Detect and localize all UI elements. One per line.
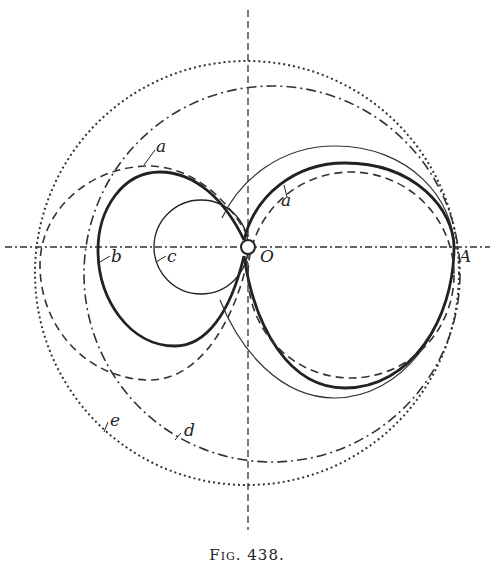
label-a-right: a xyxy=(281,190,291,210)
label-c: c xyxy=(167,246,177,266)
leader-c xyxy=(156,256,166,262)
figure-caption: Fig. 438. xyxy=(0,546,494,564)
curve-d-dashdot xyxy=(84,86,460,462)
label-b: b xyxy=(111,246,122,266)
curve-b-outer-thick xyxy=(244,163,454,388)
label-a-left: a xyxy=(156,136,166,156)
leader-b xyxy=(100,256,110,262)
label-d: d xyxy=(184,420,195,440)
label-A: A xyxy=(457,246,471,266)
label-O: O xyxy=(260,246,274,266)
label-e: e xyxy=(110,410,120,430)
origin-marker xyxy=(241,240,255,254)
leader-e xyxy=(104,422,108,432)
leader-a-left xyxy=(144,150,155,165)
limacon-figure: a a b c O A d e xyxy=(0,0,494,576)
